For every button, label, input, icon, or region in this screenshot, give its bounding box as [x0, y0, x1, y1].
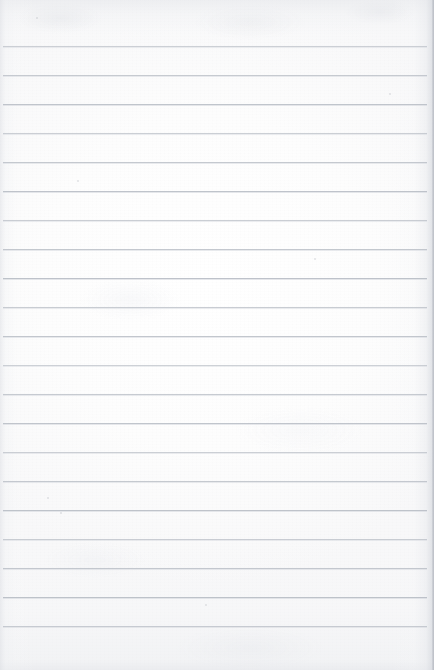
ruled-line: [3, 626, 427, 627]
handwriting-area[interactable]: [3, 46, 427, 626]
lined-paper-page: [0, 0, 434, 670]
